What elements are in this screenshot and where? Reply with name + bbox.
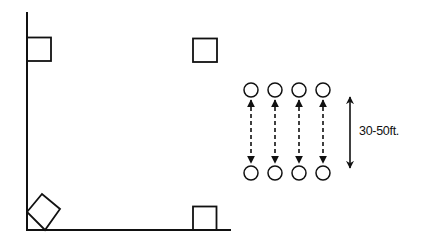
- pass-arrows: [251, 100, 323, 163]
- top-left-marker: [27, 38, 51, 62]
- players-bottom-row: [244, 166, 330, 180]
- bottom-right-marker: [193, 207, 217, 231]
- player-circle: [268, 166, 282, 180]
- player-circle: [316, 166, 330, 180]
- corner-marker: [27, 194, 60, 230]
- player-circle: [268, 83, 282, 97]
- distance-label: 30-50ft.: [359, 124, 399, 138]
- player-circle: [292, 166, 306, 180]
- players-top-row: [244, 83, 330, 97]
- top-right-marker: [193, 39, 217, 63]
- player-circle: [292, 83, 306, 97]
- player-circle: [244, 166, 258, 180]
- player-circle: [316, 83, 330, 97]
- field-diagram: [0, 0, 430, 245]
- player-circle: [244, 83, 258, 97]
